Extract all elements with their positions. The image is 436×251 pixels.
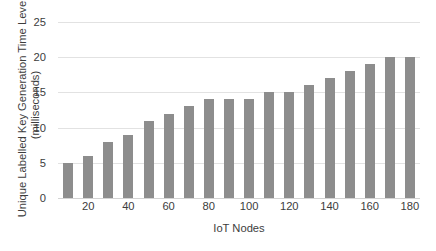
- y-tick-label-15: 15: [34, 86, 46, 98]
- y-tick-label-10: 10: [34, 122, 46, 134]
- y-tick-label-5: 5: [40, 157, 46, 169]
- x-tick-label-60: 60: [162, 200, 174, 212]
- bar: [144, 121, 154, 198]
- bar-chart-figure: Unique Labelled Key Generation Time Leve…: [0, 0, 436, 251]
- x-tick-label-80: 80: [203, 200, 215, 212]
- bar: [304, 85, 314, 198]
- bar: [184, 106, 194, 198]
- bar: [164, 114, 174, 198]
- bar: [345, 71, 355, 198]
- plot-area: [58, 22, 420, 198]
- x-tick-label-40: 40: [122, 200, 134, 212]
- bar: [123, 135, 133, 198]
- bar: [365, 64, 375, 198]
- x-axis-tick-labels: 20406080100120140160180: [58, 200, 420, 216]
- x-tick-label-140: 140: [320, 200, 339, 212]
- gridline-0: [58, 198, 420, 199]
- bar: [385, 57, 395, 198]
- x-tick-label-160: 160: [360, 200, 379, 212]
- x-tick-label-20: 20: [82, 200, 94, 212]
- bar: [325, 78, 335, 198]
- x-tick-label-120: 120: [280, 200, 299, 212]
- bar: [63, 163, 73, 198]
- y-tick-label-0: 0: [40, 192, 46, 204]
- bar: [284, 92, 294, 198]
- x-tick-label-100: 100: [240, 200, 259, 212]
- y-tick-label-25: 25: [34, 16, 46, 28]
- bar: [264, 92, 274, 198]
- bar: [405, 57, 415, 198]
- bars-layer: [58, 22, 420, 198]
- y-tick-label-20: 20: [34, 51, 46, 63]
- x-axis-title: IoT Nodes: [58, 222, 420, 234]
- y-axis-tick-labels: 0510152025: [0, 22, 52, 198]
- bar: [244, 99, 254, 198]
- bar: [224, 99, 234, 198]
- bar: [103, 142, 113, 198]
- x-tick-label-180: 180: [401, 200, 420, 212]
- bar: [83, 156, 93, 198]
- bar: [204, 99, 214, 198]
